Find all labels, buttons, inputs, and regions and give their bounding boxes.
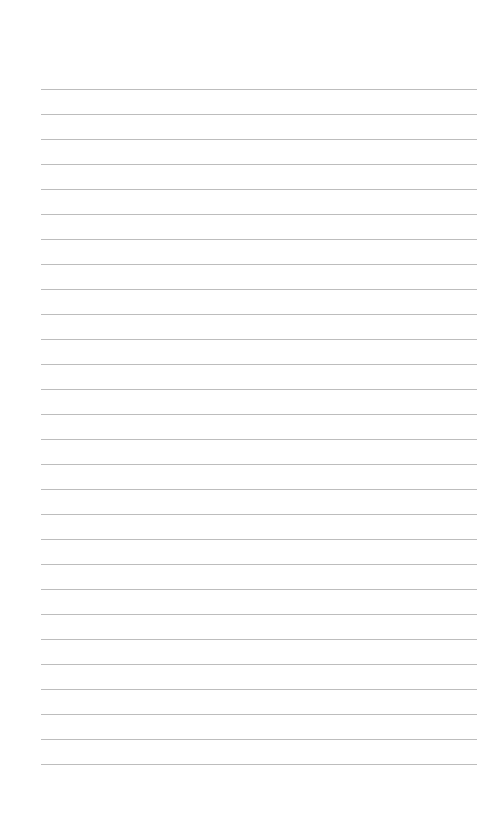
ruled-line xyxy=(41,589,477,590)
ruled-line xyxy=(41,164,477,165)
lined-paper-page xyxy=(0,0,491,820)
ruled-line xyxy=(41,689,477,690)
ruled-line xyxy=(41,264,477,265)
ruled-line xyxy=(41,764,477,765)
ruled-line xyxy=(41,389,477,390)
ruled-line xyxy=(41,539,477,540)
ruled-line xyxy=(41,364,477,365)
ruled-line xyxy=(41,414,477,415)
ruled-line xyxy=(41,714,477,715)
ruled-line xyxy=(41,614,477,615)
ruled-line xyxy=(41,489,477,490)
ruled-line xyxy=(41,639,477,640)
ruled-line xyxy=(41,464,477,465)
ruled-line xyxy=(41,739,477,740)
ruled-line xyxy=(41,189,477,190)
ruled-line xyxy=(41,314,477,315)
ruled-line xyxy=(41,339,477,340)
ruled-line xyxy=(41,664,477,665)
ruled-line xyxy=(41,239,477,240)
ruled-line xyxy=(41,89,477,90)
ruled-line xyxy=(41,564,477,565)
ruled-line xyxy=(41,514,477,515)
ruled-line xyxy=(41,214,477,215)
ruled-line xyxy=(41,289,477,290)
ruled-line xyxy=(41,139,477,140)
ruled-line xyxy=(41,114,477,115)
ruled-line xyxy=(41,439,477,440)
